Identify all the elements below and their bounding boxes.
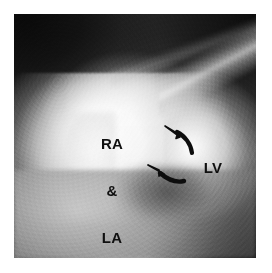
label-ra: RA (86, 136, 138, 152)
label-lv: LV (196, 160, 230, 176)
curved-arrow-icon-upper (158, 120, 200, 160)
curved-arrow-icon-lower (140, 158, 188, 190)
figure-root: RA & LA LV (0, 0, 272, 273)
label-la: LA (86, 230, 138, 246)
label-ra-and-la: RA & LA (86, 104, 138, 273)
label-ampersand: & (86, 183, 138, 199)
rib-arc (111, 14, 256, 87)
